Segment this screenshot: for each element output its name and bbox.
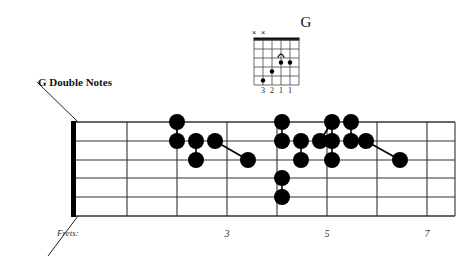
note-dot[interactable]	[343, 114, 359, 130]
muted-string-x-icon: ×	[250, 28, 258, 37]
finger-number: 1	[277, 86, 285, 95]
chord-name-label: G	[276, 14, 336, 31]
muted-string-x-icon: ×	[259, 28, 267, 37]
note-dot[interactable]	[293, 152, 309, 168]
chord-dot[interactable]	[279, 60, 283, 64]
page-title: G Double Notes	[38, 76, 112, 88]
note-dot[interactable]	[207, 133, 223, 149]
note-dot[interactable]	[324, 133, 340, 149]
chord-dot[interactable]	[270, 69, 274, 73]
note-dot[interactable]	[343, 133, 359, 149]
note-dot[interactable]	[169, 133, 185, 149]
chord-dot[interactable]	[261, 78, 265, 82]
finger-number: 2	[268, 86, 276, 95]
note-dot[interactable]	[240, 152, 256, 168]
note-dot[interactable]	[392, 152, 408, 168]
note-dot[interactable]	[274, 170, 290, 186]
fret-number: 3	[220, 228, 234, 239]
note-dot[interactable]	[188, 152, 204, 168]
chord-dot[interactable]	[288, 60, 292, 64]
leader-line	[37, 82, 78, 122]
note-dot[interactable]	[169, 114, 185, 130]
fret-number: 7	[420, 228, 434, 239]
nut	[71, 121, 76, 217]
note-dot[interactable]	[324, 114, 340, 130]
fretboard-diagram: G G Double Notes Frets: 357 3211 ××	[0, 0, 463, 271]
note-dot[interactable]	[188, 133, 204, 149]
fret-number: 5	[320, 228, 334, 239]
note-dot[interactable]	[324, 152, 340, 168]
note-dot[interactable]	[274, 133, 290, 149]
note-dot[interactable]	[274, 114, 290, 130]
note-dot[interactable]	[293, 133, 309, 149]
frets-label: Frets:	[57, 228, 79, 238]
finger-number: 3	[259, 86, 267, 95]
note-dot[interactable]	[358, 133, 374, 149]
note-dot[interactable]	[274, 189, 290, 205]
finger-number: 1	[286, 86, 294, 95]
